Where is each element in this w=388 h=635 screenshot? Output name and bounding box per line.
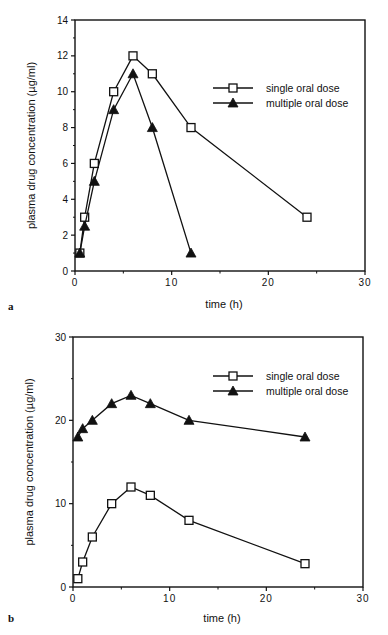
open-square-marker	[146, 491, 154, 499]
open-square-marker	[110, 88, 118, 96]
legend-label: multiple oral dose	[266, 97, 348, 109]
y-tick-label: 10	[55, 498, 67, 509]
open-square-marker	[74, 575, 82, 583]
x-tick-label: 10	[163, 593, 176, 604]
filled-triangle-marker	[186, 248, 196, 257]
x-tick-label: 20	[262, 277, 275, 288]
open-square-marker	[129, 52, 137, 60]
open-square-marker	[88, 533, 96, 541]
filled-triangle-marker	[147, 123, 157, 132]
x-tick-label: 30	[358, 277, 371, 288]
x-tick-label: 0	[72, 277, 79, 288]
open-square-marker	[79, 558, 87, 566]
legend-label: multiple oral dose	[266, 385, 348, 397]
x-tick-label: 30	[356, 593, 369, 604]
figure: 024681012140102030time (h)plasma drug co…	[0, 0, 388, 635]
y-tick-label: 4	[62, 194, 68, 205]
y-tick-label: 20	[55, 415, 67, 426]
open-square-marker	[90, 159, 98, 167]
x-axis-title: time (h)	[205, 298, 242, 310]
series-multiple-oral-dose	[73, 390, 310, 441]
y-tick-label: 14	[57, 15, 69, 26]
filled-triangle-marker	[184, 415, 194, 424]
open-square-marker	[303, 213, 311, 221]
y-tick-label: 0	[62, 266, 68, 277]
legend-label: single oral dose	[266, 370, 340, 382]
x-axis: 0102030	[72, 271, 372, 288]
panel-letter: b	[8, 612, 14, 624]
legend-label: single oral dose	[266, 82, 340, 94]
x-tick-label: 0	[70, 593, 77, 604]
y-axis: 02468101214	[57, 15, 75, 277]
open-square-marker	[185, 516, 193, 524]
x-tick-label: 20	[260, 593, 273, 604]
open-square-marker	[301, 560, 309, 568]
filled-triangle-marker	[145, 399, 155, 408]
filled-triangle-marker	[126, 390, 136, 399]
open-square-marker	[229, 84, 237, 92]
filled-triangle-marker	[80, 221, 90, 230]
y-tick-label: 10	[57, 86, 69, 97]
filled-triangle-marker	[128, 69, 138, 78]
y-axis: 0102030	[55, 332, 73, 593]
open-square-marker	[148, 70, 156, 78]
open-square-marker	[127, 483, 135, 491]
y-tick-label: 6	[62, 158, 68, 169]
filled-triangle-marker	[107, 399, 117, 408]
y-tick-label: 0	[60, 582, 66, 593]
y-axis-title: plasma drug concentration (µg/ml)	[23, 378, 35, 545]
y-tick-label: 12	[57, 50, 69, 61]
y-tick-label: 8	[62, 122, 68, 133]
x-tick-label: 10	[165, 277, 178, 288]
y-tick-label: 30	[55, 332, 67, 343]
open-square-marker	[108, 500, 116, 508]
chart-panel-a: 024681012140102030time (h)plasma drug co…	[8, 15, 372, 313]
y-axis-title: plasma drug concentration (µg/ml)	[25, 62, 37, 229]
open-square-marker	[187, 124, 195, 132]
series-single-oral-dose	[74, 483, 309, 583]
panel-letter: a	[8, 300, 14, 312]
chart-panel-b: 01020300102030time (h)plasma drug concen…	[8, 332, 370, 625]
legend: single oral dosemultiple oral dose	[213, 82, 348, 109]
plot-frame	[75, 20, 365, 271]
x-axis: 0102030	[70, 587, 370, 604]
filled-triangle-marker	[73, 432, 83, 441]
open-square-marker	[229, 372, 237, 380]
y-tick-label: 2	[62, 230, 68, 241]
legend: single oral dosemultiple oral dose	[213, 370, 348, 397]
figure-svg: 024681012140102030time (h)plasma drug co…	[0, 0, 388, 635]
x-axis-title: time (h)	[203, 612, 240, 624]
